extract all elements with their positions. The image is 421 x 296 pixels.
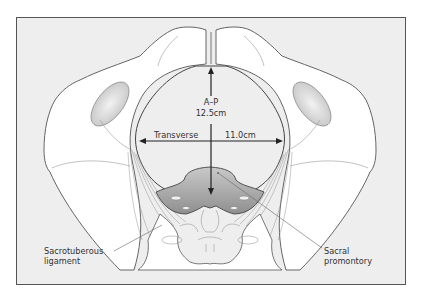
sacrotuberous-label-line2: ligament [44,256,80,266]
sacrotuberous-label-line1: Sacrotuberous [44,246,103,256]
ap-label: A–P [196,97,226,107]
sacral-promontory-point [217,172,219,174]
transverse-value: 11.0cm [225,130,256,140]
ap-value: 12.5cm [192,108,230,118]
sacral-label-line1: Sacral [324,246,349,256]
sacrum-lower [138,214,282,270]
sacral-label-line2: promontory [324,256,372,266]
transverse-label: Transverse [154,130,198,140]
